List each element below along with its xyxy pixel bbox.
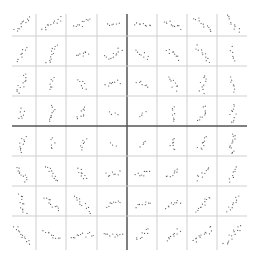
data-point (222, 243, 223, 244)
data-point (196, 241, 197, 242)
data-point (177, 56, 178, 57)
data-point (237, 230, 238, 231)
data-point (147, 59, 148, 60)
data-point (17, 61, 18, 62)
data-point (145, 201, 146, 202)
data-point (55, 180, 56, 181)
data-point (116, 145, 117, 146)
data-point (202, 177, 203, 178)
data-point (23, 86, 24, 87)
data-point (195, 48, 196, 49)
data-point (204, 75, 205, 76)
data-point (233, 136, 234, 137)
data-point (23, 115, 24, 116)
data-point (19, 172, 20, 173)
data-point (174, 106, 175, 107)
data-point (180, 203, 181, 204)
data-point (232, 134, 233, 135)
data-point (147, 87, 148, 88)
data-point (180, 231, 181, 232)
data-point (136, 82, 137, 83)
data-point (86, 138, 87, 139)
data-point (228, 206, 229, 207)
data-point (176, 56, 177, 57)
data-point (140, 146, 141, 147)
data-point (82, 26, 83, 27)
data-point (203, 24, 204, 25)
data-point (169, 53, 170, 54)
data-point (138, 173, 139, 174)
data-point (17, 28, 18, 29)
data-point (229, 147, 230, 148)
data-point (176, 202, 177, 203)
data-point (21, 199, 22, 200)
data-point (177, 25, 178, 26)
data-point (169, 238, 170, 239)
data-point (21, 116, 22, 117)
data-point (53, 53, 54, 54)
data-point (20, 111, 21, 112)
data-point (23, 176, 24, 177)
data-point (51, 144, 52, 145)
data-point (234, 138, 235, 139)
data-point (170, 80, 171, 81)
data-point (177, 200, 178, 201)
data-point (52, 137, 53, 138)
data-point (204, 201, 205, 202)
data-point (203, 142, 204, 143)
data-point (21, 54, 22, 55)
data-point (109, 111, 110, 112)
data-point (54, 77, 55, 78)
data-point (197, 175, 198, 176)
data-point (202, 89, 203, 90)
data-point (199, 90, 200, 91)
data-point (51, 147, 52, 148)
data-point (174, 54, 175, 55)
data-point (114, 82, 115, 83)
data-point (24, 141, 25, 142)
data-point (50, 56, 51, 57)
data-point (229, 178, 230, 179)
data-point (82, 233, 83, 234)
data-point (135, 50, 136, 51)
data-point (55, 206, 56, 207)
data-point (172, 25, 173, 26)
data-point (82, 140, 83, 141)
data-point (50, 204, 51, 205)
data-point (108, 85, 109, 86)
data-point (205, 112, 206, 113)
data-point (229, 18, 230, 19)
data-point (146, 85, 147, 86)
data-point (180, 29, 181, 30)
data-point (233, 171, 234, 172)
data-point (43, 198, 44, 199)
data-point (50, 139, 51, 140)
data-point (79, 198, 80, 199)
data-point (174, 172, 175, 173)
data-point (146, 229, 147, 230)
data-point (205, 57, 206, 58)
data-point (51, 51, 52, 52)
data-point (177, 86, 178, 87)
data-point (48, 232, 49, 233)
data-point (19, 143, 20, 144)
data-point (108, 206, 109, 207)
data-point (111, 24, 112, 25)
data-point (200, 207, 201, 208)
data-point (119, 170, 120, 171)
data-point (17, 91, 18, 92)
data-point (118, 48, 119, 49)
data-point (52, 207, 53, 208)
data-point (201, 172, 202, 173)
data-point (23, 144, 24, 145)
data-point (119, 23, 120, 24)
data-point (20, 148, 21, 149)
data-point (42, 230, 43, 231)
data-point (55, 176, 56, 177)
data-point (77, 116, 78, 117)
data-point (169, 49, 170, 50)
data-point (233, 120, 234, 121)
data-point (106, 172, 107, 173)
data-point (230, 50, 231, 51)
data-point (19, 28, 20, 29)
